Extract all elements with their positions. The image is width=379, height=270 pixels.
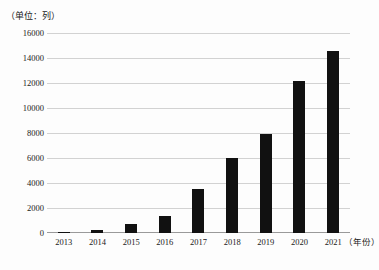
bar [125, 224, 137, 233]
x-axis-tick-label: 2013 [47, 238, 81, 247]
y-axis-tick-label: 4000 [0, 179, 44, 188]
bar-slot [47, 33, 81, 233]
bar [192, 189, 204, 233]
y-axis-tick-label: 10000 [0, 104, 44, 113]
bar-slot [148, 33, 182, 233]
bar [293, 81, 305, 234]
x-axis-tick-label: 2019 [249, 238, 283, 247]
x-axis-tick-label: 2018 [215, 238, 249, 247]
bar-slot [249, 33, 283, 233]
bar [226, 158, 238, 233]
bar-slot [182, 33, 216, 233]
bar [159, 216, 171, 234]
bar-slot [316, 33, 350, 233]
bar [327, 51, 339, 234]
y-axis-tick-label: 16000 [0, 29, 44, 38]
bar [58, 232, 70, 233]
y-axis-tick-label: 0 [0, 229, 44, 238]
x-axis-tick-label: 2015 [114, 238, 148, 247]
y-axis-tick-label: 14000 [0, 54, 44, 63]
bar-slot [114, 33, 148, 233]
bar-slot [283, 33, 317, 233]
x-axis-tick-label: 2014 [81, 238, 115, 247]
bar-series [47, 33, 350, 233]
bar [260, 134, 272, 233]
bar-slot [215, 33, 249, 233]
plot-area [47, 33, 350, 233]
bar [91, 230, 103, 233]
y-axis-tick-label: 12000 [0, 79, 44, 88]
bar-slot [81, 33, 115, 233]
x-axis-tick-label: 2017 [182, 238, 216, 247]
x-axis-tick-label: 2016 [148, 238, 182, 247]
y-axis-tick-label: 6000 [0, 154, 44, 163]
x-axis-tick-label: 2020 [283, 238, 317, 247]
x-axis-title: （年份） [344, 238, 379, 247]
unit-caption: （单位：列） [6, 9, 60, 22]
y-axis-tick-label: 2000 [0, 204, 44, 213]
y-axis-tick-label: 8000 [0, 129, 44, 138]
